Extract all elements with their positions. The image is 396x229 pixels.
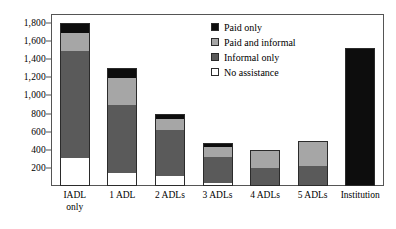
x-axis-tick-labels: IADL only1 ADL2 ADLs3 ADLs4 ADLs5 ADLsIn… — [51, 189, 384, 227]
bar-segment[interactable] — [346, 49, 374, 186]
legend-item-label: Paid only — [224, 22, 262, 33]
legend-item[interactable]: Paid only — [211, 20, 341, 34]
bar-segment[interactable] — [251, 168, 279, 185]
y-axis-tick-label: 1,600 — [24, 36, 46, 46]
stacked-bar[interactable] — [250, 150, 280, 186]
bar-segment[interactable] — [108, 105, 136, 173]
y-axis-tick-label: 200 — [31, 163, 46, 173]
bar-segment[interactable] — [204, 157, 232, 183]
bar-segment[interactable] — [61, 24, 89, 33]
y-axis-tick-label: 1,000 — [24, 90, 46, 100]
bar-segment[interactable] — [251, 151, 279, 168]
bar-segment[interactable] — [108, 173, 136, 185]
bar-segment[interactable] — [204, 147, 232, 157]
x-axis-tick-label: Institution — [336, 189, 384, 201]
bar-group[interactable] — [107, 14, 137, 186]
y-axis-tick-label: 1,800 — [24, 18, 46, 28]
legend-item[interactable]: Paid and informal — [211, 35, 341, 49]
chart-legend: Paid onlyPaid and informalInformal onlyN… — [211, 20, 341, 80]
legend-swatch-icon — [211, 68, 219, 76]
bar-segment[interactable] — [61, 158, 89, 185]
y-axis-tick-label: 400 — [31, 145, 46, 155]
legend-item-label: Paid and informal — [224, 37, 296, 48]
bar-segment[interactable] — [108, 69, 136, 78]
legend-item[interactable]: Informal only — [211, 50, 341, 64]
bar-group[interactable] — [345, 14, 375, 186]
x-axis-tick-label: 2 ADLs — [146, 189, 194, 201]
y-axis-tick-label: 600 — [31, 127, 46, 137]
stacked-bar[interactable] — [298, 141, 328, 186]
bar-segment[interactable] — [156, 176, 184, 185]
bar-segment[interactable] — [108, 78, 136, 105]
stacked-bar[interactable] — [107, 68, 137, 186]
stacked-bar[interactable] — [203, 143, 233, 186]
bar-segment[interactable] — [299, 166, 327, 185]
bar-segment[interactable] — [204, 183, 232, 185]
y-axis-tick-label: 1,400 — [24, 54, 46, 64]
stacked-bar[interactable] — [60, 23, 90, 186]
bar-segment[interactable] — [299, 142, 327, 167]
bar-segment[interactable] — [61, 33, 89, 51]
x-axis-tick-label: 3 ADLs — [194, 189, 242, 201]
stacked-bar[interactable] — [345, 48, 375, 187]
bar-segment[interactable] — [61, 51, 89, 158]
y-axis-tick-label: 1,200 — [24, 72, 46, 82]
x-axis-tick-label: 4 ADLs — [241, 189, 289, 201]
chart-figure: 2004006008001,0001,2001,4001,6001,800 IA… — [0, 0, 396, 229]
y-axis-tick-labels: 2004006008001,0001,2001,4001,6001,800 — [0, 14, 46, 186]
legend-item-label: Informal only — [224, 52, 279, 63]
bar-segment[interactable] — [156, 119, 184, 130]
legend-item[interactable]: No assistance — [211, 65, 341, 79]
x-axis-tick-label: 1 ADL — [99, 189, 147, 201]
stacked-bar[interactable] — [155, 114, 185, 186]
legend-item-label: No assistance — [224, 67, 279, 78]
bar-group[interactable] — [155, 14, 185, 186]
legend-swatch-icon — [211, 23, 219, 31]
legend-swatch-icon — [211, 38, 219, 46]
legend-swatch-icon — [211, 53, 219, 61]
x-axis-tick-label: IADL only — [51, 189, 99, 213]
bar-group[interactable] — [60, 14, 90, 186]
bar-segment[interactable] — [156, 130, 184, 176]
x-axis-tick-label: 5 ADLs — [289, 189, 337, 201]
y-axis-tick-label: 800 — [31, 109, 46, 119]
